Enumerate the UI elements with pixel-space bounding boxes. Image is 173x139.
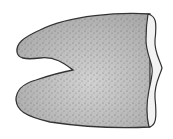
body-shape: [16, 13, 150, 127]
stippled-shape-drawing: [0, 0, 173, 139]
illustration: [0, 0, 173, 139]
